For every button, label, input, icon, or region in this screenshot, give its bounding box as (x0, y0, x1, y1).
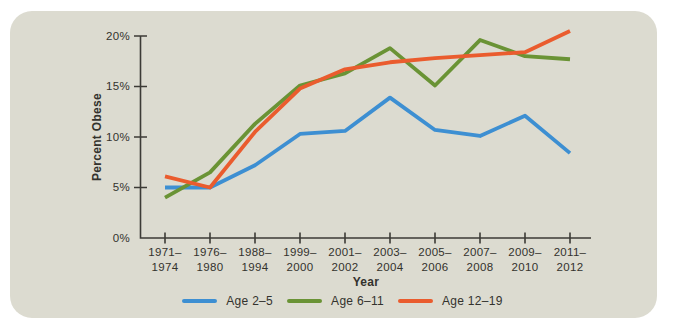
age-2-5-line-swatch-icon (182, 299, 217, 304)
legend-label: Age 2–5 (226, 294, 273, 308)
legend-item: Age 6–11 (287, 294, 384, 308)
legend: Age 2–5 Age 6–11 Age 12–19 (0, 294, 685, 308)
y-tick-label: 10% (85, 130, 130, 144)
y-tick-label: 5% (85, 180, 130, 194)
y-tick-label: 0% (85, 231, 130, 245)
age-6-11-line-swatch-icon (287, 299, 322, 304)
series-line (165, 31, 570, 188)
y-tick-label: 20% (85, 29, 130, 43)
legend-label: Age 12–19 (442, 294, 503, 308)
series-line (165, 98, 570, 188)
age-12-19-line-swatch-icon (398, 299, 433, 304)
legend-item: Age 12–19 (398, 294, 503, 308)
x-tick-label: 2011–2012 (542, 245, 598, 274)
series-line (165, 40, 570, 198)
y-tick-label: 15% (85, 79, 130, 93)
series-lines (165, 31, 570, 198)
x-axis-title: Year (336, 275, 396, 289)
legend-label: Age 6–11 (331, 294, 384, 308)
legend-item: Age 2–5 (182, 294, 273, 308)
